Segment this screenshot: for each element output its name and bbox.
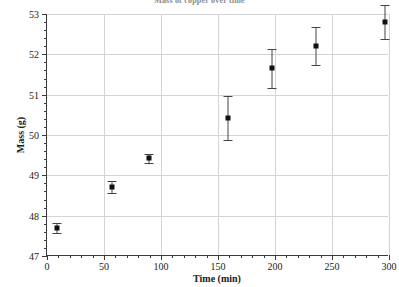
y-axis-minor-tick <box>44 224 47 225</box>
x-axis-tick <box>47 255 48 260</box>
x-axis-tick-label: 250 <box>325 261 340 272</box>
x-axis-minor-tick <box>252 255 253 258</box>
x-axis-tick <box>218 255 219 260</box>
chart-figure: Mass of copper over time Mass (g) Time (… <box>0 0 399 287</box>
x-axis-minor-tick <box>286 255 287 258</box>
y-axis-minor-tick <box>44 103 47 104</box>
plot-area: 47484950515253050100150200250300 <box>46 14 388 256</box>
y-axis-minor-tick <box>44 208 47 209</box>
x-axis-tick <box>161 255 162 260</box>
y-axis-tick-label: 47 <box>29 251 39 262</box>
gridline-vertical <box>218 14 219 255</box>
y-axis-minor-tick <box>44 127 47 128</box>
x-axis-tick-label: 300 <box>382 261 397 272</box>
x-axis-minor-tick <box>355 255 356 258</box>
x-axis-minor-tick <box>150 255 151 258</box>
x-axis-minor-tick <box>138 255 139 258</box>
x-axis-minor-tick <box>321 255 322 258</box>
x-axis-minor-tick <box>115 255 116 258</box>
gridline-vertical <box>275 14 276 255</box>
x-axis-minor-tick <box>343 255 344 258</box>
y-axis-tick-label: 53 <box>29 9 39 20</box>
x-axis-minor-tick <box>195 255 196 258</box>
x-axis-tick <box>275 255 276 260</box>
x-axis-minor-tick <box>298 255 299 258</box>
y-axis-minor-tick <box>44 30 47 31</box>
x-axis-minor-tick <box>70 255 71 258</box>
x-axis-label: Time (min) <box>46 273 388 284</box>
gridline-vertical <box>104 14 105 255</box>
y-axis-minor-tick <box>44 240 47 241</box>
x-axis-tick <box>389 255 390 260</box>
x-axis-tick <box>104 255 105 260</box>
x-axis-minor-tick <box>207 255 208 258</box>
y-axis-minor-tick <box>44 232 47 233</box>
y-axis-minor-tick <box>44 200 47 201</box>
x-axis-minor-tick <box>127 255 128 258</box>
y-axis-tick-label: 49 <box>29 170 39 181</box>
gridline-vertical <box>161 14 162 255</box>
x-axis-minor-tick <box>184 255 185 258</box>
y-axis-minor-tick <box>44 151 47 152</box>
y-axis-minor-tick <box>44 248 47 249</box>
x-axis-minor-tick <box>378 255 379 258</box>
x-axis-minor-tick <box>229 255 230 258</box>
y-axis-tick <box>42 95 47 96</box>
gridline-vertical <box>332 14 333 255</box>
chart-title: Mass of copper over time <box>0 0 399 5</box>
y-axis-minor-tick <box>44 159 47 160</box>
y-axis-minor-tick <box>44 79 47 80</box>
y-axis-minor-tick <box>44 62 47 63</box>
y-axis-minor-tick <box>44 46 47 47</box>
error-bar-cap <box>380 5 389 6</box>
x-axis-minor-tick <box>309 255 310 258</box>
y-axis-tick-label: 51 <box>29 89 39 100</box>
x-axis-tick-label: 100 <box>154 261 169 272</box>
y-axis-minor-tick <box>44 38 47 39</box>
y-axis-tick <box>42 135 47 136</box>
y-axis-tick <box>42 216 47 217</box>
x-axis-minor-tick <box>93 255 94 258</box>
x-axis-minor-tick <box>366 255 367 258</box>
y-axis-minor-tick <box>44 119 47 120</box>
y-axis-minor-tick <box>44 183 47 184</box>
x-axis-tick-label: 50 <box>99 261 109 272</box>
y-axis-label: Mass (g) <box>15 117 26 153</box>
y-axis-minor-tick <box>44 87 47 88</box>
gridline-vertical <box>389 14 390 255</box>
x-axis-tick-label: 200 <box>268 261 283 272</box>
x-axis-minor-tick <box>58 255 59 258</box>
y-axis-tick-label: 48 <box>29 210 39 221</box>
y-axis-minor-tick <box>44 111 47 112</box>
x-axis-minor-tick <box>264 255 265 258</box>
y-axis-minor-tick <box>44 143 47 144</box>
x-axis-tick-label: 150 <box>211 261 226 272</box>
y-axis-tick <box>42 175 47 176</box>
y-axis-tick <box>42 14 47 15</box>
y-axis-minor-tick <box>44 22 47 23</box>
y-axis-tick-label: 52 <box>29 49 39 60</box>
x-axis-minor-tick <box>172 255 173 258</box>
y-axis-minor-tick <box>44 167 47 168</box>
y-axis-tick-label: 50 <box>29 130 39 141</box>
y-axis-tick <box>42 54 47 55</box>
y-axis-minor-tick <box>44 70 47 71</box>
y-axis-minor-tick <box>44 191 47 192</box>
x-axis-minor-tick <box>81 255 82 258</box>
x-axis-tick <box>332 255 333 260</box>
x-axis-tick-label: 0 <box>45 261 50 272</box>
x-axis-minor-tick <box>241 255 242 258</box>
